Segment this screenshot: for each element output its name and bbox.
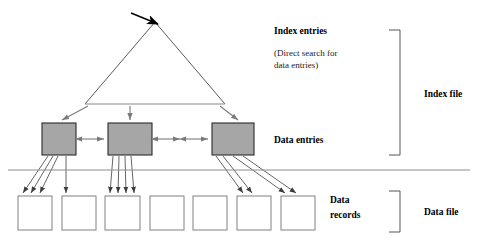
entry3-to-record6-b (223, 156, 252, 193)
data-record-7 (281, 196, 315, 230)
entry2-to-record3-d (131, 156, 134, 193)
entry1-to-record1-a (23, 156, 48, 193)
entry1-to-record1-b (31, 156, 53, 193)
data-entry-block-1 (42, 123, 76, 155)
index-structure-diagram: Index entries (Direct search for data en… (0, 0, 477, 246)
triangle-right-edge (155, 22, 225, 104)
index-to-entry-arrows (62, 106, 238, 120)
direct-search-arrow (131, 13, 158, 24)
data-record-2 (62, 196, 96, 230)
entry2-to-record3-b (118, 156, 119, 193)
data-record-5 (193, 196, 227, 230)
entry1-to-record1-c (40, 156, 58, 193)
data-entry-boxes-group (42, 123, 254, 155)
data-record-1 (18, 196, 52, 230)
search-arrow-shaft (131, 13, 158, 24)
label-index-file: Index file (424, 89, 462, 99)
data-file-bracket (389, 191, 400, 232)
file-scope-brackets (389, 30, 400, 232)
data-entry-block-3 (212, 123, 254, 155)
data-record-4 (150, 196, 184, 230)
entry3-to-record6-a (216, 156, 243, 193)
label-data-records-line1: Data (330, 195, 350, 205)
label-data-file: Data file (424, 207, 459, 217)
label-index-entries: Index entries (274, 26, 327, 36)
index-to-entry-3 (220, 106, 238, 120)
data-record-3 (105, 196, 140, 230)
entry2-to-record3-a (110, 156, 113, 193)
index-to-entry-1 (62, 106, 88, 120)
diagram-canvas: Index entries (Direct search for data en… (0, 0, 477, 246)
data-record-boxes-group (18, 196, 315, 230)
triangle-left-edge (85, 22, 155, 104)
label-direct-search-line2: data entries) (274, 60, 318, 70)
entry3-to-record7-b (243, 156, 296, 193)
index-tree-triangle (85, 22, 225, 104)
index-file-bracket (389, 30, 400, 155)
entry3-to-record7-a (233, 156, 285, 193)
diagram-labels: Index entries (Direct search for data en… (274, 26, 462, 220)
label-data-records-line2: records (330, 210, 361, 220)
data-record-6 (237, 196, 271, 230)
entry-to-record-arrows (23, 156, 296, 193)
label-data-entries: Data entries (274, 135, 324, 145)
data-entry-block-2 (108, 123, 152, 155)
label-direct-search-line1: (Direct search for (274, 48, 337, 58)
entry2-to-record3-c (125, 156, 126, 193)
